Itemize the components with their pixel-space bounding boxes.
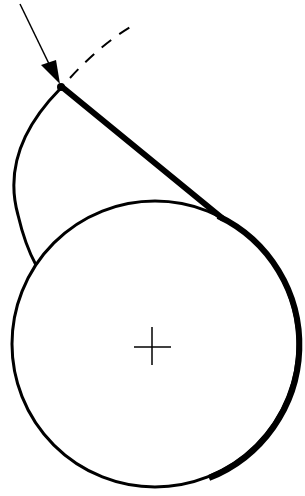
center-crosshair-icon — [134, 327, 171, 365]
thick-tangent-line — [62, 87, 222, 218]
incoming-arrow-shaft — [20, 4, 52, 70]
dashed-arc — [70, 26, 132, 78]
thick-wrap-arc — [209, 216, 299, 478]
tangent-point-dot — [57, 83, 65, 91]
arrowhead-icon — [41, 60, 60, 84]
curved-arc-left — [14, 89, 60, 265]
wrapping-diagram — [0, 0, 305, 496]
